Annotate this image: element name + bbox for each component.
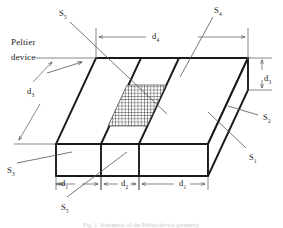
surface-label-s1: S1: [249, 153, 256, 162]
dimension-label-d1-right: d1: [179, 179, 186, 188]
peltier-device-label-line1: Peltier: [11, 38, 36, 47]
surface-label-s3: S3: [7, 166, 14, 175]
dimension-label-d3-left-sub: 3: [32, 92, 35, 98]
diagram-vector: [0, 0, 283, 228]
front-face: [56, 144, 208, 176]
leader-peltier-device: [47, 62, 82, 73]
dimension-label-d3-right-base: d: [264, 73, 268, 83]
figure-canvas: Peltier device S1 S2 S3 S4 S5 S5 d4 d3 d…: [0, 0, 283, 228]
dimension-label-d2: d2: [121, 179, 128, 188]
dimension-label-d1-left-base: d: [61, 178, 65, 188]
figure-caption: Fig. 1. Schematic of the Peltier device …: [0, 222, 283, 228]
slab-body: [56, 58, 248, 176]
dimension-label-d2-base: d: [121, 178, 125, 188]
dimension-label-d4-sub: 4: [157, 37, 160, 43]
surface-label-s4: S4: [214, 6, 221, 15]
dimension-label-d1-right-sub: 1: [184, 184, 187, 190]
surface-label-s4-sub: 4: [219, 11, 222, 17]
surface-label-s5-bottom-sub: 5: [66, 208, 69, 214]
dimension-label-d3-left-base: d: [27, 86, 31, 96]
surface-label-s5-top: S5: [59, 9, 66, 18]
dimension-label-d1-left-sub: 1: [66, 184, 69, 190]
dimension-label-d2-sub: 2: [126, 184, 129, 190]
dimension-label-d3-right-sub: 3: [269, 79, 272, 85]
surface-label-s2-sub: 2: [268, 118, 271, 124]
dimension-d4: [96, 28, 248, 60]
peltier-device-label-line2: device: [11, 53, 35, 62]
dimension-label-d3-left: d3: [27, 87, 34, 96]
surface-label-s1-sub: 1: [254, 158, 257, 164]
d3-left-arrow-down: [19, 104, 40, 140]
surface-label-s5-bottom: S5: [61, 203, 68, 212]
dimension-label-d4: d4: [152, 32, 159, 41]
surface-label-s2: S2: [263, 113, 270, 122]
dimension-label-d3-right: d3: [264, 74, 271, 83]
dimension-label-d4-base: d: [152, 31, 156, 41]
dimension-label-d1-left: d1: [61, 179, 68, 188]
surface-label-s5-top-sub: 5: [64, 14, 67, 20]
surface-label-s3-sub: 3: [12, 171, 15, 177]
dimension-label-d1-right-base: d: [179, 178, 183, 188]
